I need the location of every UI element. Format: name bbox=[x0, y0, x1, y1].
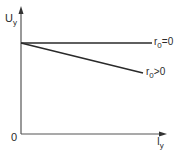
legend-r0-eq-0-rest: =0 bbox=[162, 36, 173, 47]
y-axis-label-main: U bbox=[5, 12, 13, 24]
legend-r0-gt-0-rest: >0 bbox=[154, 66, 165, 77]
legend-r0-eq-0-sub: 0 bbox=[157, 41, 161, 50]
y-axis-label-sub: y bbox=[13, 18, 17, 27]
legend-r0-gt-0-sub: 0 bbox=[149, 71, 153, 80]
x-axis-label-sub: y bbox=[160, 141, 164, 150]
legend-r0-gt-0: r0>0 bbox=[146, 67, 165, 77]
origin-label: 0 bbox=[11, 132, 17, 143]
x-axis-arrow-icon bbox=[159, 132, 167, 137]
y-axis-label: Uy bbox=[5, 13, 17, 24]
series-line-r0-gt-0 bbox=[21, 43, 143, 73]
legend-r0-eq-0: r0=0 bbox=[154, 37, 173, 47]
y-axis-arrow-icon bbox=[19, 6, 24, 14]
x-axis-label: Iy bbox=[157, 137, 164, 147]
